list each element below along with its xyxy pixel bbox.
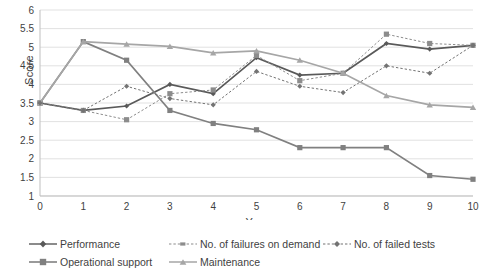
legend-label-maintenance: Maintenance	[200, 256, 260, 268]
x-axis-title: Year	[245, 216, 268, 220]
data-point	[384, 145, 389, 150]
chart-legend: Performance Operational support	[0, 236, 489, 277]
y-tick-label: 2.5	[20, 135, 34, 146]
y-tick-label: 6	[28, 5, 34, 16]
legend-label-failed-tests: No. of failed tests	[354, 238, 435, 250]
data-point	[167, 108, 172, 113]
x-tick-label: 2	[124, 201, 130, 212]
legend-item-operational-support[interactable]: Operational support	[28, 254, 152, 270]
x-tick-label: 9	[427, 201, 433, 212]
legend-item-failures-on-demand[interactable]: No. of failures on demand	[168, 236, 320, 252]
data-point	[211, 87, 216, 92]
x-tick-label: 1	[81, 201, 87, 212]
data-point	[124, 117, 129, 122]
legend-column-middle: No. of failures on demand Maintenance	[168, 236, 320, 272]
data-point	[341, 90, 346, 95]
legend-key-failures-on-demand-icon	[168, 238, 198, 250]
legend-label-performance: Performance	[60, 238, 120, 250]
y-axis-label: Score	[23, 40, 35, 100]
line-chart: 11.522.533.544.555.56012345678910Year Sc…	[0, 0, 489, 277]
y-tick-label: 1.5	[20, 172, 34, 183]
plot-area: 11.522.533.544.555.56012345678910Year	[0, 0, 489, 220]
data-point	[297, 78, 302, 83]
legend-item-failed-tests[interactable]: No. of failed tests	[322, 236, 435, 252]
x-tick-label: 10	[467, 201, 479, 212]
data-point	[470, 177, 475, 182]
x-tick-label: 8	[384, 201, 390, 212]
data-point	[427, 41, 432, 46]
data-point	[297, 145, 302, 150]
data-point	[384, 63, 389, 68]
data-point	[211, 121, 216, 126]
y-tick-label: 3	[28, 116, 34, 127]
plot-svg: 11.522.533.544.555.56012345678910Year	[0, 0, 489, 220]
legend-key-performance-icon	[28, 238, 58, 250]
x-tick-label: 4	[210, 201, 216, 212]
data-point	[254, 53, 259, 58]
data-point	[341, 145, 346, 150]
legend-item-maintenance[interactable]: Maintenance	[168, 254, 320, 270]
data-point	[384, 32, 389, 37]
legend-column-right: No. of failed tests	[322, 236, 435, 254]
x-tick-label: 3	[167, 201, 173, 212]
x-tick-label: 5	[254, 201, 260, 212]
legend-item-performance[interactable]: Performance	[28, 236, 152, 252]
data-point	[167, 96, 172, 101]
data-point	[297, 73, 302, 78]
legend-key-maintenance-icon	[168, 256, 198, 268]
legend-key-operational-support-icon	[28, 256, 58, 268]
data-point	[427, 173, 432, 178]
legend-label-failures-on-demand: No. of failures on demand	[200, 238, 320, 250]
y-tick-label: 2	[28, 153, 34, 164]
data-point	[254, 127, 259, 132]
legend-column-left: Performance Operational support	[28, 236, 152, 272]
x-tick-label: 7	[340, 201, 346, 212]
x-tick-label: 6	[297, 201, 303, 212]
legend-key-failed-tests-icon	[322, 238, 352, 250]
data-point	[167, 91, 172, 96]
y-tick-label: 5.5	[20, 23, 34, 34]
data-point	[124, 58, 129, 63]
data-point	[427, 71, 432, 76]
y-tick-label: 1	[28, 191, 34, 202]
legend-label-operational-support: Operational support	[60, 256, 152, 268]
x-tick-label: 0	[37, 201, 43, 212]
